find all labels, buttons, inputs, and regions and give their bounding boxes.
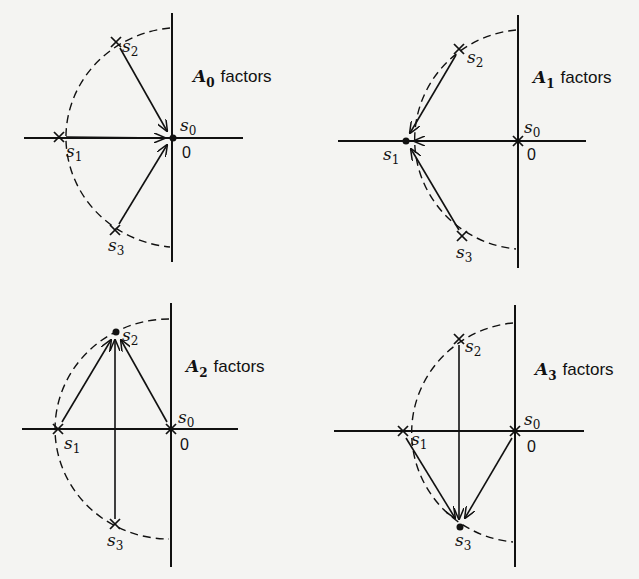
label-s2: s2 <box>122 325 138 348</box>
panel-a2: s0 0 s1 s2 s3 A2factors <box>22 303 265 567</box>
arrow-s0-to-s3 <box>465 438 512 518</box>
label-s2: s2 <box>122 36 138 59</box>
label-s1: s1 <box>411 429 427 452</box>
origin-label: 0 <box>180 436 189 453</box>
panel-title-a2: A2factors <box>184 356 265 380</box>
pole-vector-diagrams: s0 0 s1 s2 s3 A0factors s0 0 s1 s2 s3 A1… <box>0 0 639 579</box>
dashed-semicircle <box>415 30 516 249</box>
arrow-s3-to-s0 <box>119 145 167 224</box>
label-s3: s3 <box>108 235 124 258</box>
label-s1: s1 <box>64 433 80 456</box>
panel-title-a0: A0factors <box>191 66 272 90</box>
label-s0: s0 <box>524 409 540 432</box>
label-s1: s1 <box>383 144 399 167</box>
label-s1: s1 <box>66 141 82 164</box>
dashed-semicircle <box>412 323 513 542</box>
panel-a3: s0 0 s1 s2 s3 A3factors <box>334 305 614 567</box>
arrow-s0-to-s2 <box>121 340 167 422</box>
panel-a1: s0 0 s1 s2 s3 A1factors <box>338 15 612 268</box>
label-s3: s3 <box>455 530 471 553</box>
arrow-s1-to-s3 <box>406 438 455 518</box>
panel-title-a1: A1factors <box>531 67 612 91</box>
panel-title-a3: A3factors <box>533 359 614 383</box>
label-s0: s0 <box>178 407 194 430</box>
origin-label: 0 <box>527 146 536 163</box>
label-s2: s2 <box>467 47 483 70</box>
pole-dot-s1 <box>403 138 410 145</box>
arrow-s2-to-s0 <box>120 48 167 131</box>
pole-cross-s3 <box>457 231 467 241</box>
label-s3: s3 <box>107 530 123 553</box>
arrow-s1-to-s2 <box>62 340 111 422</box>
pole-cross-s2 <box>111 37 121 47</box>
label-s3: s3 <box>456 242 472 265</box>
origin-label: 0 <box>527 438 536 455</box>
arrow-s2-to-s1 <box>410 55 456 133</box>
label-s0: s0 <box>180 115 196 138</box>
arrow-s1-to-s0 <box>66 137 165 138</box>
label-s0: s0 <box>524 117 540 140</box>
label-s2: s2 <box>465 336 481 359</box>
arrow-s3-to-s1 <box>411 149 459 230</box>
pole-dot-s0 <box>170 135 177 142</box>
pole-dot-s2 <box>113 329 120 336</box>
panel-a0: s0 0 s1 s2 s3 A0factors <box>24 13 272 262</box>
origin-label: 0 <box>182 144 191 161</box>
